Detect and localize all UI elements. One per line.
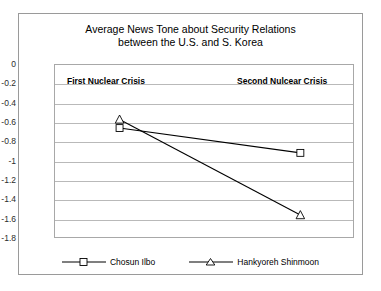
- y-tick-label: -0.8: [0, 136, 16, 146]
- y-tick-label: -1.8: [0, 233, 16, 243]
- data-point-chosun-ilbo-second: [297, 149, 304, 156]
- y-tick-label: -0.6: [0, 117, 16, 127]
- legend-label-hankyoreh-shinmoon: Hankyoreh Shinmoon: [237, 257, 319, 267]
- y-tick-label: -1.4: [0, 194, 16, 204]
- plot-area: First Nuclear Crisis Second Nulcear Cris…: [54, 64, 354, 238]
- y-tick-label: 0: [0, 59, 16, 69]
- legend-label-chosun-ilbo: Chosun Ilbo: [110, 257, 155, 267]
- chart-legend: Chosun Ilbo Hankyoreh Shinmoon: [19, 257, 362, 267]
- y-tick-label: -0.4: [0, 98, 16, 108]
- y-tick-label: -1.2: [0, 175, 16, 185]
- y-tick-label: -1: [0, 156, 16, 166]
- data-point-hankyoreh-first: [115, 115, 124, 123]
- chart-container: Average News Tone about Security Relatio…: [18, 13, 363, 275]
- legend-entry-hankyoreh-shinmoon[interactable]: Hankyoreh Shinmoon: [189, 257, 319, 267]
- legend-entry-chosun-ilbo[interactable]: Chosun Ilbo: [62, 257, 155, 267]
- data-point-hankyoreh-second: [296, 211, 305, 219]
- square-marker-icon: [62, 257, 106, 267]
- series-line-hankyoreh-shinmoon: [120, 119, 301, 215]
- series-line-chosun-ilbo: [120, 128, 301, 153]
- series-layer: [55, 65, 353, 237]
- y-tick-label: -0.2: [0, 78, 16, 88]
- data-point-chosun-ilbo-first: [116, 125, 123, 132]
- triangle-marker-icon: [189, 257, 233, 267]
- chart-title: Average News Tone about Security Relatio…: [19, 23, 362, 49]
- y-tick-label: -1.6: [0, 214, 16, 224]
